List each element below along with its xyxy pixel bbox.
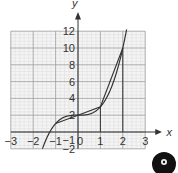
x-axis-label: x (165, 126, 172, 138)
y-axis-arrow-icon (75, 12, 81, 20)
x-tick-label: 0 (77, 135, 83, 147)
y-tick-label: −1 (62, 134, 75, 146)
x-tick-label: 3 (142, 135, 148, 147)
x-tick-label: −3 (5, 135, 18, 147)
y-axis-label: y (71, 0, 79, 9)
y-tick-label: 4 (69, 92, 75, 104)
y-tick-label: 10 (63, 42, 75, 54)
disc-icon[interactable] (151, 151, 177, 173)
y-tick-label: 12 (63, 25, 75, 37)
x-axis-arrow-icon (155, 129, 162, 135)
y-tick-label: 6 (69, 76, 75, 88)
x-tick-label: −1 (49, 135, 62, 147)
cubic-graph: xy−3−2−10123−2−124681012 (0, 0, 178, 173)
x-tick-label: −2 (27, 135, 40, 147)
y-tick-label: 8 (69, 59, 75, 71)
x-tick-label: 2 (120, 135, 126, 147)
x-tick-label: 1 (97, 135, 103, 147)
